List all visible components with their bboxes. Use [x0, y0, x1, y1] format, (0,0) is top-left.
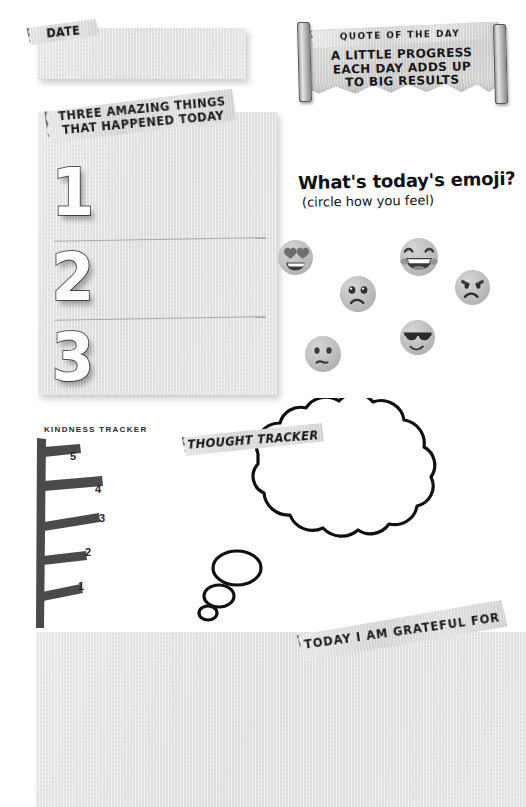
list-number-1: 1 [52, 160, 95, 226]
ladder-label-3: 3 [99, 512, 105, 524]
kindness-tracker-title: KINDNESS TRACKER [44, 425, 147, 434]
ladder-rung-3 [44, 513, 100, 531]
frowning-emoji[interactable] [305, 336, 341, 372]
ladder-label-5: 5 [70, 450, 76, 462]
quote-text: A LITTLE PROGRESS EACH DAY ADDS UP TO BI… [310, 46, 495, 91]
ladder-label-4: 4 [95, 483, 101, 495]
emoji-question-subtitle: (circle how you feel) [302, 191, 508, 210]
scroll-roll-right-icon [493, 24, 508, 104]
heart-eyes-emoji[interactable] [278, 240, 313, 275]
kindness-ladder[interactable] [28, 438, 158, 630]
list-number-2: 2 [52, 245, 95, 311]
ladder-label-2: 2 [85, 546, 91, 558]
ladder-rung-1 [42, 584, 83, 601]
list-number-3: 3 [52, 325, 95, 391]
emoji-section-header: What's today's emoji? (circle how you fe… [298, 170, 508, 208]
ladder-label-1: 1 [78, 580, 84, 592]
ladder-rung-2 [43, 551, 87, 565]
emoji-question-title: What's today's emoji? [298, 168, 508, 193]
angry-emoji[interactable] [455, 270, 490, 305]
grateful-input-field[interactable] [36, 632, 526, 807]
quote-header-label: QUOTE OF THE DAY [340, 28, 461, 41]
laughing-emoji[interactable] [400, 238, 438, 276]
date-label: DATE [46, 23, 81, 40]
sad-emoji[interactable] [340, 276, 376, 312]
sunglasses-emoji[interactable] [400, 320, 435, 355]
